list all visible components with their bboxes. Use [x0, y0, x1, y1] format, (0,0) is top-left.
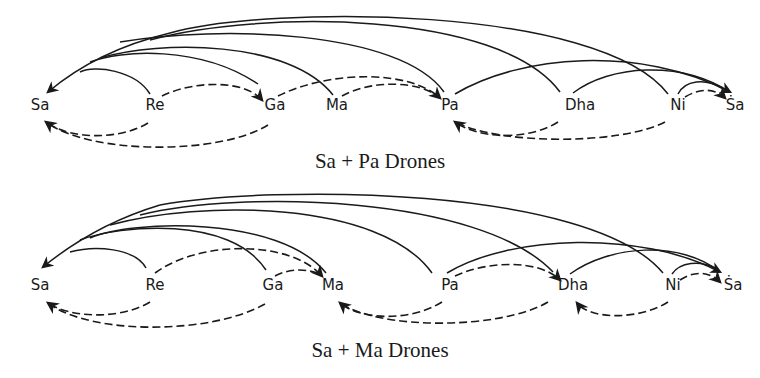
dashed-arc-re-to-ga — [162, 84, 262, 100]
solid-arc-dha-to-sa — [140, 202, 553, 272]
dashed-arc-ga-to-sa — [46, 122, 268, 147]
note-label-sa: Sa — [31, 276, 50, 294]
note-label-ga: Ga — [263, 276, 284, 294]
solid-arc-pa-to-sa_upper — [455, 61, 730, 94]
note-label-pa: Pa — [441, 96, 459, 114]
dashed-arc-pa-to-ma — [340, 302, 442, 316]
solid-arc-pa-to-sa — [110, 210, 432, 273]
note-label-ni: Ni — [670, 96, 685, 114]
solid-arc-ni-to-sa_upper — [672, 263, 715, 274]
note-label-pa: Pa — [441, 276, 459, 294]
dashed-arc-re-to-sa — [46, 122, 148, 136]
note-label-re: Re — [146, 96, 165, 114]
note-label-ni: Ni — [665, 276, 680, 294]
solid-arc-pa-to-sa_upper — [447, 242, 720, 273]
solid-arc-ga-to-sa — [90, 53, 258, 84]
dashed-arc-re-to-ma — [155, 249, 322, 276]
note-label-sa_upper: Ṡa — [724, 275, 743, 294]
dashed-arc-ga-to-sa — [48, 303, 265, 327]
dashed-arc-ma-to-pa — [342, 84, 440, 98]
sa-ma-drones-panel: SaReGaMaPaDhaNiṠaSa + Ma Drones — [31, 194, 743, 362]
sa-pa-drones-panel: SaReGaMaPaDhaNiṠaSa + Pa Drones — [31, 16, 745, 173]
note-label-sa: Sa — [31, 96, 50, 114]
solid-arc-re-to-sa — [80, 69, 150, 94]
dashed-arc-pa-to-dha — [455, 264, 560, 280]
dashed-arc-ni-to-sa_upper — [680, 273, 720, 282]
note-label-ga: Ga — [265, 96, 286, 114]
solid-arc-ni-to-sa — [160, 194, 663, 273]
dashed-arc-ni-to-sa_upper — [685, 90, 725, 98]
solid-arc-dha-to-sa — [150, 22, 560, 92]
dashed-arc-ni-to-dha — [577, 302, 668, 316]
note-label-re: Re — [146, 276, 165, 294]
diagram-caption: Sa + Pa Drones — [315, 149, 445, 173]
note-label-ma: Ma — [326, 96, 348, 114]
solid-arc-pa-to-sa — [120, 34, 444, 92]
note-label-dha: Dha — [565, 96, 595, 114]
note-label-sa_upper: Ṡa — [726, 95, 745, 114]
dashed-arc-dha-to-ma — [340, 302, 548, 323]
note-label-dha: Dha — [558, 276, 588, 294]
note-label-ma: Ma — [322, 276, 344, 294]
diagram-caption: Sa + Ma Drones — [311, 338, 448, 362]
raga-drone-diagram: SaReGaMaPaDhaNiṠaSa + Pa Drones SaReGaMa… — [0, 0, 760, 378]
solid-arc-re-to-sa — [70, 249, 146, 268]
solid-arc-sa_tail-to-sa — [48, 33, 170, 92]
dashed-arc-ni-to-pa — [455, 122, 665, 139]
solid-arc-ni-to-sa — [170, 16, 668, 94]
dashed-arc-re-to-sa — [48, 302, 150, 315]
solid-arc-ma-to-sa — [90, 226, 326, 273]
solid-arc-ma-to-sa — [100, 47, 333, 95]
